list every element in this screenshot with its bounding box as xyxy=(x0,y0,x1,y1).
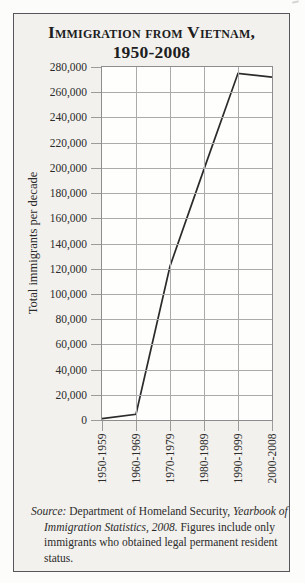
data-line xyxy=(102,73,272,418)
y-tick-label: 160,000 xyxy=(14,211,87,225)
chart-title-line1: Immigration from Vietnam, xyxy=(48,22,255,42)
y-gridline xyxy=(102,344,272,345)
y-tick xyxy=(91,370,101,371)
y-gridline xyxy=(102,193,272,194)
x-tick-label: 1980-1989 xyxy=(198,429,211,489)
y-tick-label: 60,000 xyxy=(14,337,87,351)
y-tick-label: 280,000 xyxy=(14,60,87,74)
y-tick-label: 40,000 xyxy=(14,363,87,377)
y-gridline xyxy=(102,168,272,169)
y-tick xyxy=(91,218,101,219)
y-tick-label: 200,000 xyxy=(14,161,87,175)
y-tick xyxy=(91,168,101,169)
y-gridline xyxy=(102,218,272,219)
y-tick xyxy=(91,269,101,270)
y-tick xyxy=(91,420,101,421)
y-tick xyxy=(91,395,101,396)
y-tick-label: 260,000 xyxy=(14,85,87,99)
x-tick-label: 1990-1999 xyxy=(232,429,245,489)
source-note: Source: Department of Homeland Security,… xyxy=(31,504,295,566)
y-tick-label: 120,000 xyxy=(14,262,87,276)
x-tick-label: 1950-1959 xyxy=(96,429,109,489)
y-tick-label: 220,000 xyxy=(14,136,87,150)
chart-title-line2: 1950-2008 xyxy=(113,42,191,62)
y-gridline xyxy=(102,319,272,320)
y-tick xyxy=(91,67,101,68)
y-tick xyxy=(91,117,101,118)
y-gridline xyxy=(102,92,272,93)
y-tick-label: 180,000 xyxy=(14,186,87,200)
y-gridline xyxy=(102,370,272,371)
y-tick xyxy=(91,244,101,245)
chart-title: Immigration from Vietnam,1950-2008 xyxy=(14,22,289,62)
y-tick xyxy=(91,344,101,345)
x-gridline xyxy=(136,67,137,420)
source-label: Source: xyxy=(31,505,66,517)
plot-area xyxy=(101,66,273,421)
chart-card: Immigration from Vietnam,1950-2008 Total… xyxy=(13,13,290,572)
x-gridline xyxy=(238,67,239,420)
y-tick-label: 0 xyxy=(14,413,87,427)
x-tick-label: 1960-1969 xyxy=(130,429,143,489)
y-gridline xyxy=(102,143,272,144)
source-text-1: Department of Homeland Security, xyxy=(66,505,233,517)
x-gridline xyxy=(170,67,171,420)
y-tick-label: 240,000 xyxy=(14,110,87,124)
x-gridline xyxy=(204,67,205,420)
x-tick-label: 1970-1979 xyxy=(164,429,177,489)
y-gridline xyxy=(102,244,272,245)
y-tick xyxy=(91,143,101,144)
y-gridline xyxy=(102,395,272,396)
y-tick-label: 100,000 xyxy=(14,287,87,301)
x-tick-label: 2000-2008 xyxy=(266,429,279,489)
y-gridline xyxy=(102,117,272,118)
page-edge-artifact xyxy=(292,0,299,3)
y-gridline xyxy=(102,269,272,270)
y-tick xyxy=(91,193,101,194)
y-tick xyxy=(91,294,101,295)
y-tick-label: 140,000 xyxy=(14,237,87,251)
y-tick-label: 80,000 xyxy=(14,312,87,326)
y-tick-label: 20,000 xyxy=(14,388,87,402)
page: { "title": { "line1": "Immigration from … xyxy=(0,0,305,583)
y-gridline xyxy=(102,294,272,295)
y-tick xyxy=(91,319,101,320)
y-tick xyxy=(91,92,101,93)
